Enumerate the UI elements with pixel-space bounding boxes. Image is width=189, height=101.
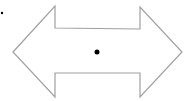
center-handle-dot[interactable] <box>95 50 100 55</box>
adjust-handle-dot[interactable] <box>1 12 3 14</box>
diagram-canvas <box>0 0 189 101</box>
